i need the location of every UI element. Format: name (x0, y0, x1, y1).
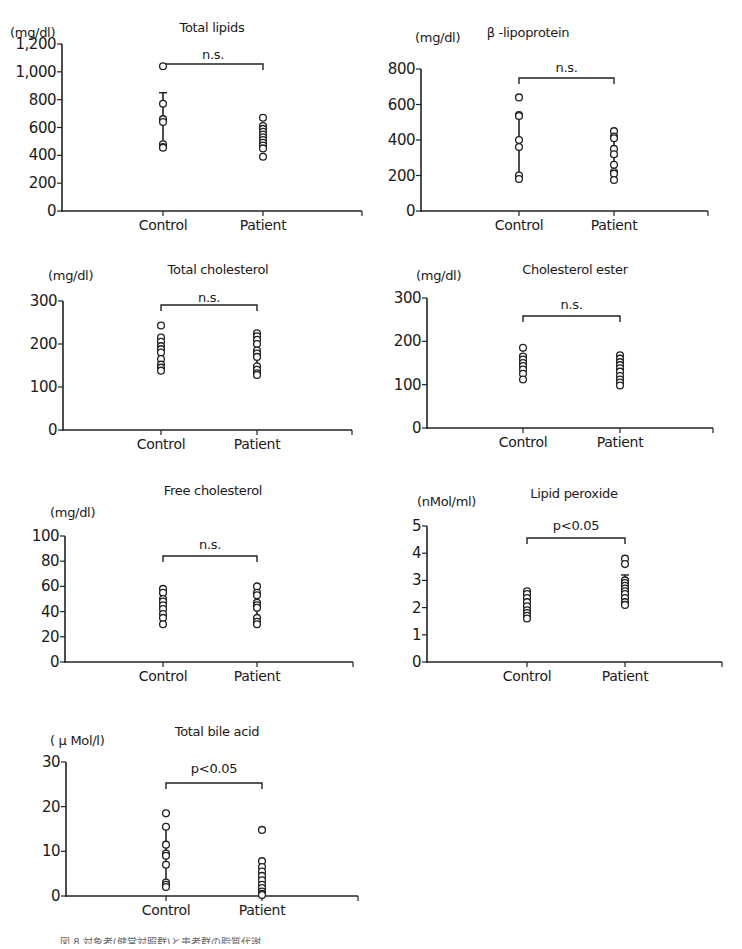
y-tick-label: 30 (0, 753, 60, 771)
x-category-label: Patient (239, 902, 286, 918)
y-tick-label: 3 (361, 571, 421, 589)
significance-label: p<0.05 (191, 761, 237, 776)
y-axis-unit: (mg/dl) (50, 505, 95, 520)
chart-title: Cholesterol ester (522, 262, 628, 277)
data-point (259, 826, 266, 833)
y-tick-label: 4 (361, 544, 421, 562)
y-axis-unit: (mg/dl) (416, 268, 461, 283)
y-tick-label: 0 (0, 653, 59, 671)
y-tick-label: 200 (0, 174, 56, 192)
y-tick-label: 200 (0, 335, 57, 353)
y-tick-label: 300 (0, 292, 57, 310)
y-tick-label: 0 (0, 202, 56, 220)
chart-title: Free cholesterol (164, 483, 262, 498)
significance-label: n.s. (198, 290, 220, 305)
x-category-label: Patient (240, 217, 287, 233)
y-tick-label: 0 (0, 421, 57, 439)
y-tick-label: 100 (361, 376, 421, 394)
y-tick-label: 20 (0, 798, 60, 816)
x-category-label: Control (137, 436, 186, 452)
y-tick-label: 200 (355, 167, 415, 185)
y-tick-label: 0 (0, 887, 60, 905)
significance-label: n.s. (555, 60, 577, 75)
x-category-label: Control (139, 668, 188, 684)
x-category-label: Patient (602, 668, 649, 684)
y-tick-label: 40 (0, 603, 59, 621)
x-category-label: Control (495, 217, 544, 233)
y-tick-label: 0 (355, 202, 415, 220)
y-axis-unit: (mg/dl) (48, 268, 93, 283)
y-tick-label: 60 (0, 577, 59, 595)
y-axis-unit: ( μ Mol/l) (50, 733, 104, 748)
x-category-label: Patient (597, 434, 644, 450)
x-category-label: Patient (234, 668, 281, 684)
y-tick-label: 1,000 (0, 63, 56, 81)
y-tick-label: 5 (361, 517, 421, 535)
y-tick-label: 20 (0, 628, 59, 646)
significance-label: n.s. (202, 47, 224, 62)
y-tick-label: 600 (355, 96, 415, 114)
chart-title: β -lipoprotein (487, 25, 570, 40)
x-category-label: Control (142, 902, 191, 918)
y-tick-label: 100 (0, 378, 57, 396)
y-tick-label: 80 (0, 552, 59, 570)
y-tick-label: 200 (361, 332, 421, 350)
y-tick-label: 300 (361, 289, 421, 307)
data-point (259, 892, 266, 899)
y-tick-label: 400 (355, 131, 415, 149)
x-category-label: Control (503, 668, 552, 684)
data-point (163, 861, 170, 868)
data-point (163, 852, 170, 859)
data-point (163, 841, 170, 848)
y-axis-unit: (mg/dl) (415, 30, 460, 45)
y-tick-label: 800 (355, 60, 415, 78)
y-tick-label: 600 (0, 119, 56, 137)
data-point (163, 884, 170, 891)
x-category-label: Patient (234, 436, 281, 452)
x-category-label: Control (499, 434, 548, 450)
y-tick-label: 10 (0, 842, 60, 860)
x-category-label: Control (139, 217, 188, 233)
chart-title: Total cholesterol (168, 262, 269, 277)
chart-title: Total lipids (179, 20, 244, 35)
y-tick-label: 0 (361, 419, 421, 437)
y-axis-unit: (mg/dl) (10, 25, 55, 40)
y-tick-label: 100 (0, 527, 59, 545)
y-axis-unit: (nMol/ml) (417, 494, 476, 509)
figure-caption: 図 8 対象者(健常対照群)と患者群の脂質代謝 … (60, 934, 720, 944)
significance-label: p<0.05 (553, 518, 599, 533)
significance-label: n.s. (199, 537, 221, 552)
y-tick-label: 400 (0, 146, 56, 164)
y-tick-label: 2 (361, 599, 421, 617)
significance-bracket (166, 783, 262, 789)
y-tick-label: 800 (0, 91, 56, 109)
chart-title: Lipid peroxide (530, 486, 617, 501)
x-category-label: Patient (591, 217, 638, 233)
data-point (163, 823, 170, 830)
y-tick-label: 0 (361, 653, 421, 671)
significance-label: n.s. (560, 297, 582, 312)
y-tick-label: 1 (361, 626, 421, 644)
data-point (163, 810, 170, 817)
chart-title: Total bile acid (175, 724, 260, 739)
